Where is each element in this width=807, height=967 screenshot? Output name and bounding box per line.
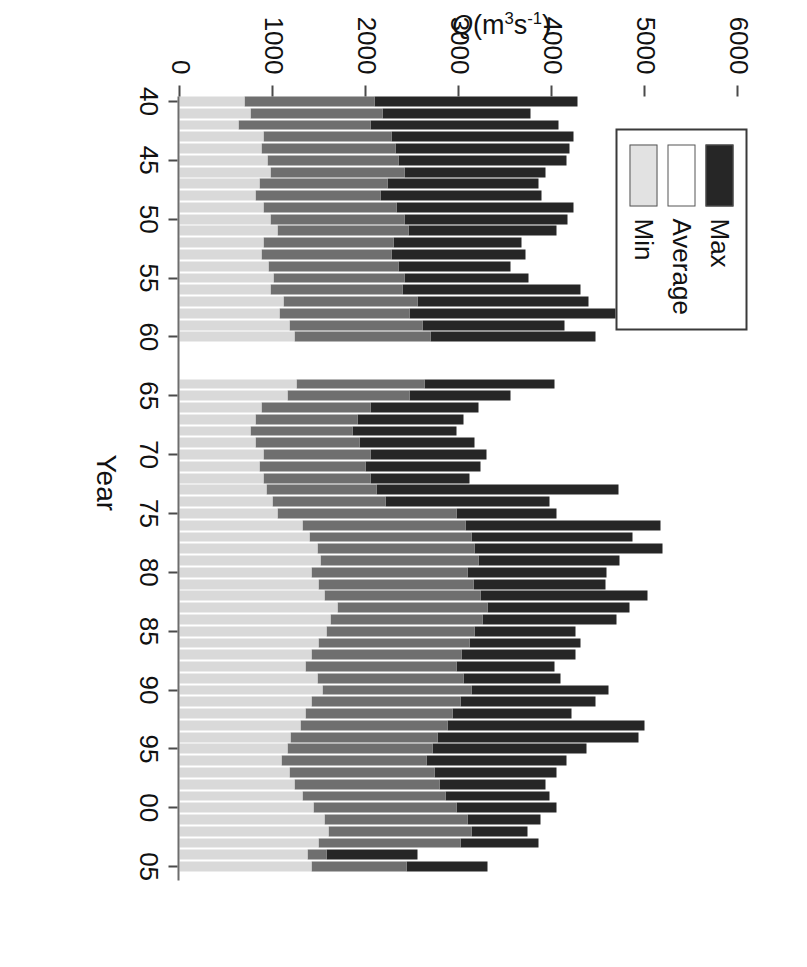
bar-segment-max — [460, 696, 596, 706]
bar-year-1966 — [179, 402, 478, 412]
bar-segment-average — [326, 626, 475, 636]
bar-year-1955 — [179, 273, 528, 283]
year-axis-label-90: 90 — [135, 675, 161, 704]
bar-segment-average — [318, 838, 459, 848]
bar-segment-max — [326, 849, 417, 859]
bar-year-1979 — [179, 555, 619, 565]
bar-segment-min — [179, 791, 302, 801]
bar-segment-average — [294, 331, 430, 341]
bar-segment-min — [179, 720, 300, 730]
bar-segment-max — [380, 190, 542, 200]
bar-segment-min — [179, 567, 311, 577]
bar-segment-min — [179, 237, 263, 247]
bar-segment-min — [179, 661, 305, 671]
bar-segment-min — [179, 484, 266, 494]
bar-segment-max — [357, 414, 463, 424]
bar-year-1964 — [179, 379, 554, 389]
bar-segment-average — [324, 814, 467, 824]
year-axis-tick-50 — [168, 218, 177, 220]
bar-segment-max — [460, 838, 538, 848]
bar-segment-average — [263, 202, 397, 212]
value-axis-tick-1000 — [271, 85, 273, 96]
bar-year-1982 — [179, 590, 647, 600]
bar-year-1954 — [179, 261, 510, 271]
legend-item-max: Max — [705, 144, 733, 314]
bar-segment-max — [488, 602, 629, 612]
year-axis-label-65: 65 — [135, 381, 161, 410]
bar-year-1980 — [179, 567, 606, 577]
bar-year-1967 — [179, 414, 463, 424]
bar-segment-average — [273, 273, 404, 283]
year-axis-tick-55 — [168, 277, 177, 279]
bar-segment-average — [255, 414, 357, 424]
year-axis-tick-65 — [168, 394, 177, 396]
bar-segment-max — [365, 461, 480, 471]
bar-year-1977 — [179, 532, 632, 542]
bar-segment-average — [337, 602, 488, 612]
year-axis-label-45: 45 — [135, 145, 161, 174]
bar-segment-min — [179, 590, 324, 600]
bar-year-1973 — [179, 484, 618, 494]
bar-segment-average — [283, 296, 417, 306]
bar-segment-min — [179, 320, 289, 330]
bar-segment-min — [179, 296, 283, 306]
bar-segment-max — [393, 237, 521, 247]
bar-segment-max — [478, 555, 619, 565]
bar-year-1976 — [179, 520, 660, 530]
year-axis-tick-40 — [168, 100, 177, 102]
bar-segment-max — [463, 673, 560, 683]
bar-segment-average — [270, 167, 404, 177]
bar-segment-average — [317, 673, 464, 683]
legend-swatch-max — [705, 144, 733, 206]
bar-segment-max — [424, 379, 554, 389]
bar-segment-average — [244, 96, 374, 106]
bar-segment-max — [382, 108, 531, 118]
bar-segment-min — [179, 143, 261, 153]
bar-segment-average — [263, 449, 371, 459]
bar-segment-max — [402, 284, 580, 294]
year-axis-tick-90 — [168, 689, 177, 691]
bar-segment-average — [311, 649, 462, 659]
bar-segment-min — [179, 131, 263, 141]
bar-year-1943 — [179, 131, 573, 141]
bar-year-1992 — [179, 708, 571, 718]
bar-segment-min — [179, 261, 268, 271]
bar-segment-average — [287, 743, 432, 753]
bar-segment-min — [179, 190, 255, 200]
year-axis-label-60: 60 — [135, 322, 161, 351]
value-axis-zero-line — [177, 96, 179, 880]
bar-segment-max — [387, 178, 538, 188]
bar-segment-min — [179, 437, 255, 447]
bar-segment-average — [317, 543, 475, 553]
bar-segment-average — [263, 237, 393, 247]
bar-segment-max — [452, 708, 571, 718]
bar-segment-min — [179, 108, 250, 118]
bar-year-2000 — [179, 802, 556, 812]
value-axis-label-0: 0 — [167, 60, 193, 74]
bar-year-1957 — [179, 296, 588, 306]
year-axis-tick-80 — [168, 571, 177, 573]
bar-year-1981 — [179, 579, 605, 589]
bar-year-2001 — [179, 814, 540, 824]
category-axis-title: Year — [89, 454, 121, 511]
bar-segment-average — [294, 779, 439, 789]
bar-segment-max — [456, 508, 556, 518]
bar-segment-max — [409, 390, 509, 400]
bar-segment-average — [311, 696, 460, 706]
bar-segment-max — [437, 732, 638, 742]
bar-segment-average — [324, 590, 480, 600]
bar-segment-max — [474, 543, 662, 553]
bar-segment-min — [179, 626, 326, 636]
bar-segment-average — [302, 520, 466, 530]
bar-segment-average — [318, 579, 472, 589]
bar-segment-average — [263, 473, 371, 483]
bar-segment-min — [179, 426, 250, 436]
bar-year-1947 — [179, 178, 538, 188]
bar-year-1945 — [179, 155, 566, 165]
bar-segment-max — [471, 826, 527, 836]
bar-segment-average — [270, 214, 404, 224]
bar-segment-average — [302, 791, 445, 801]
bar-segment-max — [465, 520, 660, 530]
bar-segment-max — [456, 661, 554, 671]
bar-segment-min — [179, 273, 273, 283]
